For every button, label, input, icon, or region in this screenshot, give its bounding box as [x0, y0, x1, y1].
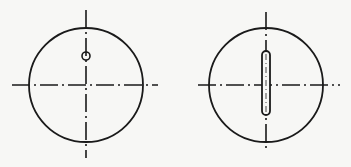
technical-drawing: [0, 0, 351, 167]
view-with-slot: [198, 12, 340, 152]
view-with-hole: [12, 10, 158, 158]
